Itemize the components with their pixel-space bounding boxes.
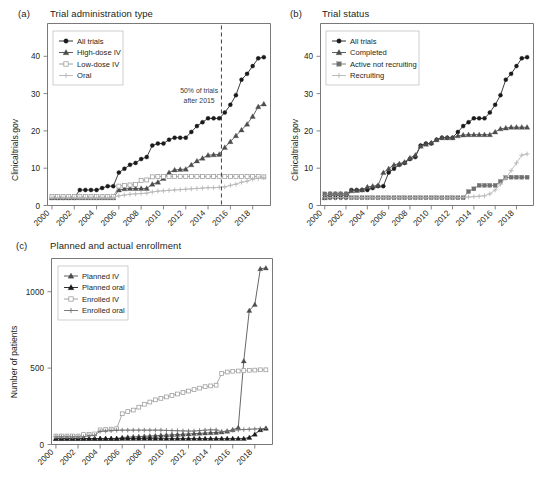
data-point-marker [173, 174, 177, 178]
data-point-marker [231, 369, 235, 373]
x-tick-label: 2016 [475, 208, 495, 228]
data-point-marker [183, 187, 188, 192]
data-point-marker [387, 171, 391, 175]
legend-label: High-dose IV [77, 48, 122, 57]
x-tick-label: 2002 [58, 447, 78, 467]
data-point-marker [189, 174, 193, 178]
data-point-marker [166, 170, 171, 175]
data-point-marker [262, 55, 266, 59]
data-point-marker [184, 174, 188, 178]
figure-root: (a) Trial administration type 0 10 20 30… [0, 0, 551, 487]
data-point-marker [184, 136, 188, 140]
data-point-marker [203, 428, 208, 433]
data-point-marker [492, 129, 497, 134]
data-point-marker [498, 93, 502, 97]
data-point-marker [263, 265, 268, 269]
data-point-marker [209, 384, 213, 388]
panel-a-xaxis: 2000200220042006200820102012201420162018 [32, 206, 253, 228]
data-point-marker [333, 195, 338, 200]
data-point-marker [111, 184, 115, 188]
series-line [56, 370, 266, 436]
x-tick-label: 2002 [326, 208, 346, 228]
data-point-marker [339, 192, 343, 196]
data-point-marker [133, 191, 138, 196]
data-point-marker [145, 178, 149, 182]
data-point-marker [198, 386, 202, 390]
series-low-dose-iv [50, 174, 266, 198]
x-tick-label: 2002 [54, 208, 74, 228]
x-tick-label: 2014 [454, 208, 474, 228]
panel-a: (a) Trial administration type 0 10 20 30… [0, 0, 290, 240]
data-point-marker [520, 56, 524, 60]
data-point-marker [175, 428, 180, 433]
panel-c-legend: Planned IVPlanned oralEnrolled IVEnrolle… [58, 266, 128, 320]
panel-a-ytick-20: 20 [31, 127, 41, 136]
legend-label: Active not recruiting [350, 60, 417, 69]
data-point-marker [189, 186, 194, 191]
data-point-marker [253, 368, 257, 372]
data-point-marker [242, 369, 246, 373]
data-point-marker [217, 185, 222, 190]
data-point-marker [167, 174, 171, 178]
data-point-marker [136, 428, 141, 433]
data-point-marker [344, 195, 349, 200]
data-point-marker [186, 429, 191, 434]
data-point-marker [261, 101, 266, 106]
legend-label: Planned IV [82, 272, 120, 281]
legend-label: Oral [77, 71, 92, 80]
data-point-marker [148, 428, 153, 433]
x-tick-label: 2008 [124, 447, 144, 467]
data-point-marker [195, 124, 199, 128]
data-point-marker [247, 427, 252, 432]
x-tick-label: 2004 [80, 447, 100, 467]
data-point-marker [206, 174, 210, 178]
data-point-marker [164, 428, 169, 433]
data-point-marker [206, 185, 211, 190]
data-point-marker [137, 405, 141, 409]
data-point-marker [253, 427, 258, 432]
data-point-marker [323, 192, 327, 196]
data-point-marker [161, 174, 165, 178]
x-tick-label: 2006 [102, 447, 122, 467]
data-point-marker [407, 155, 412, 160]
data-point-marker [217, 174, 221, 178]
panel-a-ytick-30: 30 [31, 90, 41, 99]
panel-a-ytick-40: 40 [31, 52, 41, 61]
x-tick-label: 2018 [233, 208, 253, 228]
data-point-marker [240, 174, 244, 178]
data-point-marker [159, 396, 163, 400]
data-point-marker [89, 188, 93, 192]
data-point-marker [106, 184, 110, 188]
data-point-marker [139, 157, 143, 161]
data-point-marker [142, 428, 147, 433]
x-tick-label: 2010 [147, 447, 167, 467]
data-point-marker [514, 175, 518, 179]
data-point-marker [514, 64, 518, 68]
data-point-marker [161, 142, 165, 146]
data-point-marker [64, 39, 68, 43]
legend-label: All trials [350, 37, 377, 46]
data-point-marker [264, 368, 268, 372]
data-point-marker [189, 130, 193, 134]
data-point-marker [328, 195, 333, 200]
data-point-marker [245, 72, 249, 76]
data-point-marker [344, 192, 348, 196]
data-point-marker [172, 188, 177, 193]
panel-b-plot: 0 10 20 30 40 Clinicaltrials.gov 2000200… [288, 0, 551, 240]
data-point-marker [509, 168, 514, 173]
data-point-marker [467, 120, 471, 124]
panel-b-ytick-20: 20 [304, 127, 314, 136]
panel-a-ylabel: Clinicaltrials.gov [10, 118, 20, 181]
annotation-line-1: 50% of trials [180, 87, 218, 94]
data-point-marker [519, 153, 524, 158]
data-point-marker [488, 111, 492, 115]
data-point-marker [381, 170, 386, 175]
data-point-marker [471, 194, 476, 199]
data-point-marker [483, 183, 487, 187]
data-point-marker [120, 428, 125, 433]
data-point-marker [122, 193, 127, 198]
data-point-marker [134, 183, 138, 187]
data-point-marker [200, 120, 204, 124]
data-point-marker [142, 402, 146, 406]
data-point-marker [222, 185, 227, 190]
